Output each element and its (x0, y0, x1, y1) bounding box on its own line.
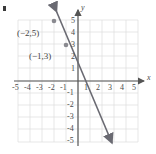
x-tick-neg1: -1 (60, 84, 67, 92)
y-tick-neg1: -1 (67, 89, 74, 97)
y-tick-neg4: -4 (67, 125, 74, 133)
x-tick-3: 3 (108, 84, 112, 92)
y-tick-neg5: -5 (67, 137, 74, 145)
data-point-marker (64, 43, 69, 48)
x-tick-neg4: -4 (24, 84, 31, 92)
x-axis-label: x (147, 74, 151, 82)
y-tick-1: 1 (71, 65, 75, 73)
x-tick-2: 2 (96, 84, 100, 92)
y-tick-neg2: -2 (67, 101, 74, 109)
point-label-b: (−1,3) (29, 52, 51, 61)
y-tick-3: 3 (71, 41, 75, 49)
y-tick-5: 5 (71, 17, 75, 25)
x-tick-4: 4 (120, 84, 124, 92)
coordinate-plane-figure: x y -5 -4 -3 -2 -1 1 2 3 4 5 5 4 3 2 1 -… (0, 0, 156, 154)
graph-canvas (0, 0, 156, 154)
plotted-line (57, 12, 113, 144)
x-tick-neg3: -3 (36, 84, 43, 92)
x-tick-1: 1 (84, 84, 88, 92)
point-label-a: (−2,5) (17, 29, 39, 38)
x-tick-neg2: -2 (48, 84, 55, 92)
y-tick-4: 4 (71, 29, 75, 37)
y-tick-neg3: -3 (67, 113, 74, 121)
data-point-marker (52, 19, 57, 24)
x-tick-neg5: -5 (12, 84, 19, 92)
x-tick-5: 5 (132, 84, 136, 92)
y-axis-label: y (81, 4, 85, 12)
y-tick-2: 2 (71, 53, 75, 61)
